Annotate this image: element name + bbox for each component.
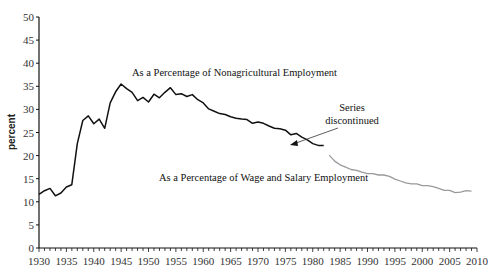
x-tick-label: 1975 — [274, 255, 297, 267]
x-tick-label: 1940 — [83, 255, 106, 267]
x-tick-label: 1995 — [384, 255, 407, 267]
x-tick-label: 1960 — [192, 255, 215, 267]
x-tick-label: 1985 — [329, 255, 352, 267]
x-axis-ticks: 1930193519401945195019551960196519701975… — [28, 248, 489, 267]
y-tick-label: 50 — [23, 11, 35, 23]
x-tick-label: 1990 — [357, 255, 380, 267]
y-tick-label: 35 — [23, 80, 35, 92]
y-tick-label: 40 — [23, 57, 35, 69]
annotation-nonagricultural: As a Percentage of Nonagricultural Emplo… — [132, 67, 337, 78]
y-axis-label: percent — [6, 113, 17, 150]
y-tick-label: 30 — [23, 103, 35, 115]
x-tick-label: 1970 — [247, 255, 270, 267]
x-tick-label: 1965 — [220, 255, 243, 267]
x-tick-label: 2010 — [466, 255, 489, 267]
annotation-series-discontinued-line2: discontinued — [325, 115, 379, 126]
annotation-series-discontinued-line1: Series — [339, 102, 365, 113]
annotation-wage-salary: As a Percentage of Wage and Salary Emplo… — [159, 172, 368, 183]
y-tick-label: 15 — [23, 173, 35, 185]
x-tick-label: 2000 — [411, 255, 434, 267]
x-tick-label: 1980 — [302, 255, 325, 267]
y-tick-label: 10 — [23, 196, 35, 208]
x-tick-label: 1955 — [165, 255, 188, 267]
x-tick-label: 1950 — [138, 255, 161, 267]
y-tick-label: 20 — [23, 150, 35, 162]
y-tick-label: 45 — [23, 34, 35, 46]
y-tick-label: 25 — [23, 127, 35, 139]
axes — [39, 17, 477, 248]
y-tick-label: 0 — [29, 242, 35, 254]
x-tick-label: 1930 — [28, 255, 51, 267]
x-tick-label: 1945 — [110, 255, 133, 267]
line-chart: 05101520253035404550 1930193519401945195… — [0, 0, 495, 272]
y-tick-label: 5 — [29, 219, 35, 231]
x-tick-label: 1935 — [55, 255, 78, 267]
x-tick-label: 2005 — [439, 255, 462, 267]
y-axis-ticks: 05101520253035404550 — [23, 11, 39, 254]
